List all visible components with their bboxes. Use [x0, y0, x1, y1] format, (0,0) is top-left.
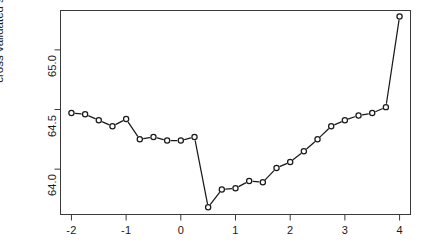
data-point-marker — [192, 134, 197, 139]
data-point-marker — [110, 124, 115, 129]
data-line-segment — [266, 171, 274, 180]
data-line-segment — [185, 138, 191, 140]
x-axis-tick-label: 3 — [325, 224, 365, 236]
data-line-segment — [376, 109, 382, 112]
data-line-segment — [386, 20, 398, 103]
data-line-segment — [320, 129, 328, 137]
data-line-segment — [307, 142, 315, 149]
data-point-marker — [342, 118, 347, 123]
data-point-marker — [397, 14, 402, 19]
x-axis-tick-label: 0 — [161, 224, 201, 236]
data-line-segment — [349, 117, 355, 119]
data-point-marker — [260, 180, 265, 185]
data-point-marker — [315, 137, 320, 142]
data-line-segment — [239, 183, 246, 186]
data-point-marker — [356, 113, 361, 118]
data-line-segment — [128, 122, 137, 136]
data-line-segment — [226, 189, 232, 190]
data-point-marker — [233, 186, 238, 191]
data-point-marker — [288, 159, 293, 164]
data-point-marker — [137, 137, 142, 142]
y-axis-tick-label: 64.0 — [46, 168, 58, 202]
data-point-marker — [247, 178, 252, 183]
data-line-segment — [335, 122, 341, 125]
data-line-segment — [293, 154, 300, 160]
data-line-segment — [144, 138, 150, 139]
data-line-segment — [157, 138, 163, 140]
x-axis-tick-label: 2 — [270, 224, 310, 236]
x-axis-tick-label: -2 — [51, 224, 91, 236]
x-axis-tick-label: 4 — [380, 224, 420, 236]
data-point-marker — [301, 149, 306, 154]
data-point-marker — [370, 110, 375, 115]
data-point-marker — [274, 165, 279, 170]
data-point-marker — [151, 134, 156, 139]
data-markers — [69, 14, 402, 210]
data-point-marker — [219, 187, 224, 192]
data-point-marker — [206, 205, 211, 210]
data-point-marker — [83, 112, 88, 117]
data-point-marker — [178, 138, 183, 143]
data-line-segment — [75, 113, 81, 114]
data-line-segment — [362, 114, 368, 115]
y-axis-tick-label: 64.5 — [46, 109, 58, 143]
data-point-marker — [165, 138, 170, 143]
data-line-segment — [116, 121, 123, 124]
data-line-segment — [89, 116, 95, 119]
x-axis-ticks — [71, 215, 399, 221]
data-point-marker — [124, 116, 129, 121]
plot-canvas — [0, 0, 425, 252]
data-line-segment — [211, 193, 220, 205]
data-line-segment — [280, 164, 286, 167]
data-point-marker — [96, 118, 101, 123]
x-axis-tick-label: -1 — [106, 224, 146, 236]
data-point-marker — [69, 110, 74, 115]
x-axis-tick-label: 1 — [216, 224, 256, 236]
data-line-segment — [102, 122, 108, 125]
data-line-segment — [253, 181, 259, 182]
chart-figure: cross validated sum of squares 64.064.56… — [0, 0, 425, 252]
data-line-segment — [195, 141, 207, 204]
data-point-marker — [383, 105, 388, 110]
data-line — [75, 20, 399, 204]
y-axis-tick-label: 65.0 — [46, 49, 58, 83]
data-point-marker — [329, 124, 334, 129]
